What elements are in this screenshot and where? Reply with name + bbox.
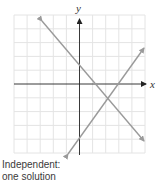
y-axis-label: y [75, 2, 81, 14]
coordinate-graph: x y [0, 0, 161, 160]
x-axis-label: x [149, 78, 155, 90]
caption-line-2: one solution [2, 171, 56, 183]
caption-line-1: Independent: [2, 159, 60, 171]
